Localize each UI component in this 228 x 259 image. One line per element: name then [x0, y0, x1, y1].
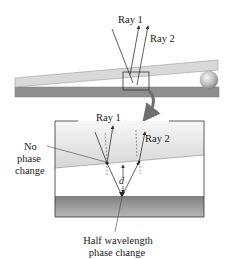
inset-ray2-label: Ray 2	[145, 133, 170, 144]
inset-view: d Ray 1 Ray 2 No phase change Half wavel…	[15, 112, 204, 258]
ray2-label: Ray 2	[150, 33, 175, 44]
inset-ray1-label: Ray 1	[96, 112, 121, 123]
no-phase-label-2: phase	[17, 153, 41, 164]
top-view: Ray 1 Ray 2	[15, 14, 219, 115]
inset-bottom-glass	[55, 196, 204, 217]
half-wavelength-label-1: Half wavelength	[83, 235, 153, 246]
no-phase-label-1: No	[24, 141, 37, 152]
half-wavelength-label-2: phase change	[89, 247, 146, 258]
top-glass-plate	[15, 60, 218, 87]
bottom-glass-plate	[15, 87, 219, 97]
no-phase-label-3: change	[15, 165, 45, 176]
wedge-interference-diagram: Ray 1 Ray 2	[0, 0, 228, 259]
ray1-label: Ray 1	[118, 14, 143, 25]
spacer-ball	[200, 71, 218, 89]
